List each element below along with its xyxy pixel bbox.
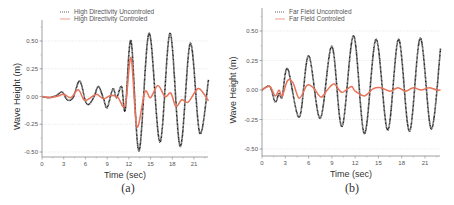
- legend: Far Field UncontroledFar Field Controled: [275, 8, 352, 22]
- legend-entry: Far Field Controled: [289, 15, 345, 22]
- x-tick-label: 3: [284, 160, 288, 166]
- x-tick-label: 15: [375, 160, 382, 166]
- chart-panel-b: 0.500.250.00-0.25-0.50036912151821Time (…: [228, 8, 441, 195]
- x-tick-label: 12: [352, 160, 359, 166]
- y-tick-label: 0.25: [26, 66, 38, 72]
- x-tick-label: 9: [105, 161, 109, 167]
- legend-entry: Far Field Uncontroled: [289, 8, 352, 15]
- legend: High Directivity UncontroledHigh Directi…: [60, 8, 155, 23]
- figure: 0.500.250.00-0.25-0.50036912151821Time (…: [0, 0, 454, 205]
- y-tick-label: 0.50: [246, 28, 258, 34]
- x-tick-label: 0: [40, 161, 44, 167]
- x-axis-label: Time (sec): [104, 170, 146, 180]
- x-tick-label: 12: [126, 161, 133, 167]
- y-tick-label: 0.00: [26, 94, 38, 100]
- y-tick-label: -0.25: [24, 121, 38, 127]
- panel-caption: (a): [121, 181, 134, 195]
- x-tick-label: 21: [422, 160, 429, 166]
- y-tick-label: -0.25: [244, 117, 258, 123]
- x-tick-label: 3: [62, 161, 66, 167]
- x-tick-label: 18: [398, 160, 405, 166]
- panel-caption: (b): [345, 181, 359, 195]
- series-uncontrolled: [262, 36, 441, 134]
- y-tick-label: -0.50: [244, 146, 258, 152]
- y-tick-label: 0.00: [246, 87, 258, 93]
- y-tick-label: 0.50: [26, 38, 38, 44]
- legend-entry: High Directivity Controled: [74, 15, 148, 23]
- x-tick-label: 6: [84, 161, 88, 167]
- y-axis-label: Wave Height (m): [12, 63, 22, 130]
- chart-panel-a: 0.500.250.00-0.25-0.50036912151821Time (…: [12, 8, 208, 195]
- y-tick-label: 0.25: [246, 58, 258, 64]
- x-tick-label: 9: [330, 160, 334, 166]
- x-tick-label: 15: [147, 161, 154, 167]
- series-uncontrolled: [42, 33, 208, 151]
- series-controlled: [42, 57, 208, 127]
- x-tick-label: 21: [191, 161, 198, 167]
- x-tick-label: 6: [307, 160, 311, 166]
- x-axis-label: Time (sec): [330, 169, 372, 179]
- x-tick-label: 0: [260, 160, 264, 166]
- y-axis-label: Wave Height (m): [228, 56, 238, 123]
- y-tick-label: -0.50: [24, 149, 38, 155]
- x-tick-label: 18: [169, 161, 176, 167]
